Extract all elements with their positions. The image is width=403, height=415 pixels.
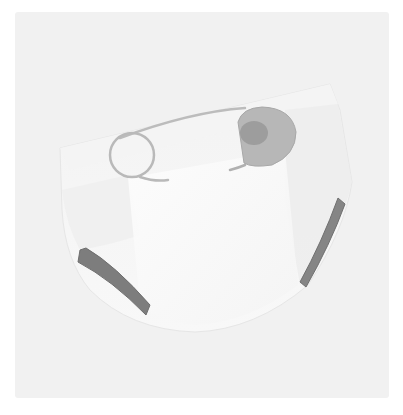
diaper <box>60 84 352 332</box>
diaper-illustration <box>0 0 403 415</box>
